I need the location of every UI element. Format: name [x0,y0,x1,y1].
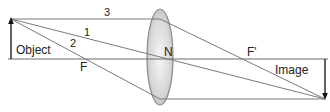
focal-point-left-label: F [80,60,87,74]
ray-2-label: 2 [70,37,76,49]
object-label: Object [16,43,51,57]
optical-center-label: N [164,45,173,59]
ray-1-label: 1 [84,26,90,38]
focal-point-right-label: F' [247,45,257,59]
ray-diagram: Object Image F F' N 1 2 3 [0,0,330,112]
diagram-canvas: Object Image F F' N 1 2 3 [0,0,330,112]
image-label: Image [275,63,309,77]
ray-3-label: 3 [104,6,110,18]
